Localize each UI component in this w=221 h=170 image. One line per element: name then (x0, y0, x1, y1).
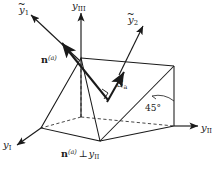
axis-line-ytilde1-main (31, 15, 79, 60)
axis-line-ytilde2 (119, 26, 143, 75)
figure-canvas: ~y1 yIII ~y2 n(a) Sa 45° yI yII n(a)⊥yII (0, 0, 221, 170)
angle-45-tick (152, 96, 156, 99)
normal-vector-arrow (62, 43, 108, 100)
diagram-vector-graphics (0, 0, 221, 170)
axis-line-y1 (17, 128, 41, 145)
area-vector-arrow (107, 72, 124, 102)
